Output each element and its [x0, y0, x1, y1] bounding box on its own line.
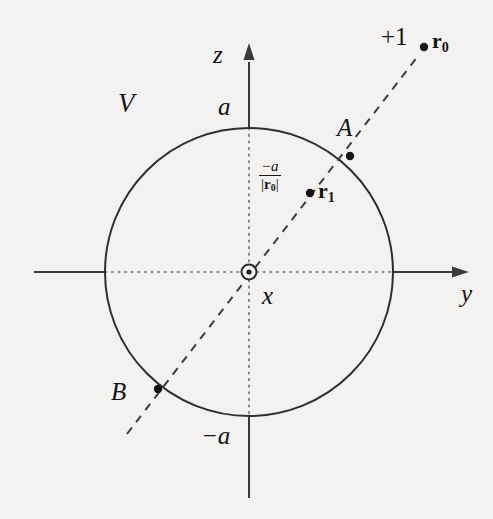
diagram-vector-layer — [0, 0, 493, 519]
origin-out-of-page-dot — [246, 269, 251, 274]
point-A-marker — [346, 152, 354, 160]
sphere-radius-bottom-label: −a — [201, 423, 230, 448]
denominator-close-bar: | — [276, 176, 279, 192]
point-B-marker — [154, 385, 162, 393]
point-r0-symbol: r — [432, 28, 442, 53]
point-r1-subscript: 1 — [328, 189, 335, 205]
point-r0-marker — [420, 43, 428, 51]
image-charge-magnitude-label: −a |r0| — [259, 159, 281, 193]
x-axis-label: x — [262, 283, 273, 308]
figure-canvas: z y x a −a V A B +1 r0 r1 −a |r0| — [0, 0, 493, 519]
charge-ray-dashed — [127, 56, 418, 434]
point-r0-label: r0 — [432, 30, 449, 54]
denominator-symbol: r — [264, 176, 271, 192]
y-axis-arrowhead — [452, 267, 469, 278]
point-r0-subscript: 0 — [442, 39, 449, 55]
image-charge-denominator: |r0| — [259, 176, 281, 193]
point-r1-label: r1 — [318, 180, 335, 204]
point-B-label: B — [111, 379, 126, 404]
point-A-label: A — [337, 115, 352, 140]
unit-charge-label: +1 — [381, 24, 408, 49]
point-r1-symbol: r — [318, 178, 328, 203]
y-axis-label: y — [461, 281, 472, 306]
region-volume-label: V — [118, 90, 135, 117]
z-axis-arrowhead — [244, 43, 255, 60]
z-axis-label: z — [213, 42, 223, 67]
point-r1-marker — [306, 189, 314, 197]
image-charge-numerator: −a — [259, 159, 281, 175]
sphere-radius-top-label: a — [218, 94, 231, 119]
